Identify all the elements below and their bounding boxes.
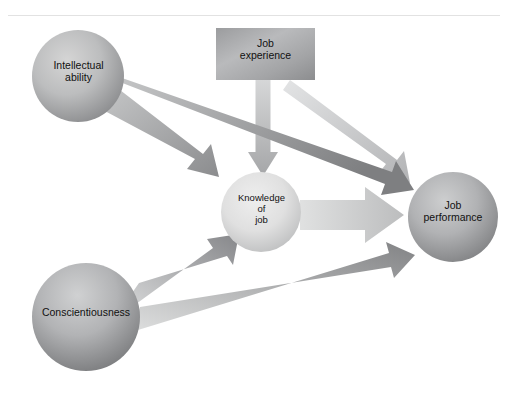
node-conscientiousness xyxy=(32,263,140,371)
edge-knowledge-to-performance xyxy=(300,187,404,243)
node-intellectual-ability xyxy=(32,30,124,122)
node-job-experience xyxy=(216,28,315,80)
diagram-canvas xyxy=(0,0,508,398)
edge-conscientiousness-to-knowledge xyxy=(132,234,239,304)
node-knowledge-of-job xyxy=(221,172,301,252)
edge-intellectual-to-knowledge xyxy=(103,90,219,177)
path-model-diagram: Intellectual ability Job experience Know… xyxy=(0,0,508,398)
edge-conscientiousness-to-performance xyxy=(136,242,415,330)
node-job-performance xyxy=(408,172,498,262)
